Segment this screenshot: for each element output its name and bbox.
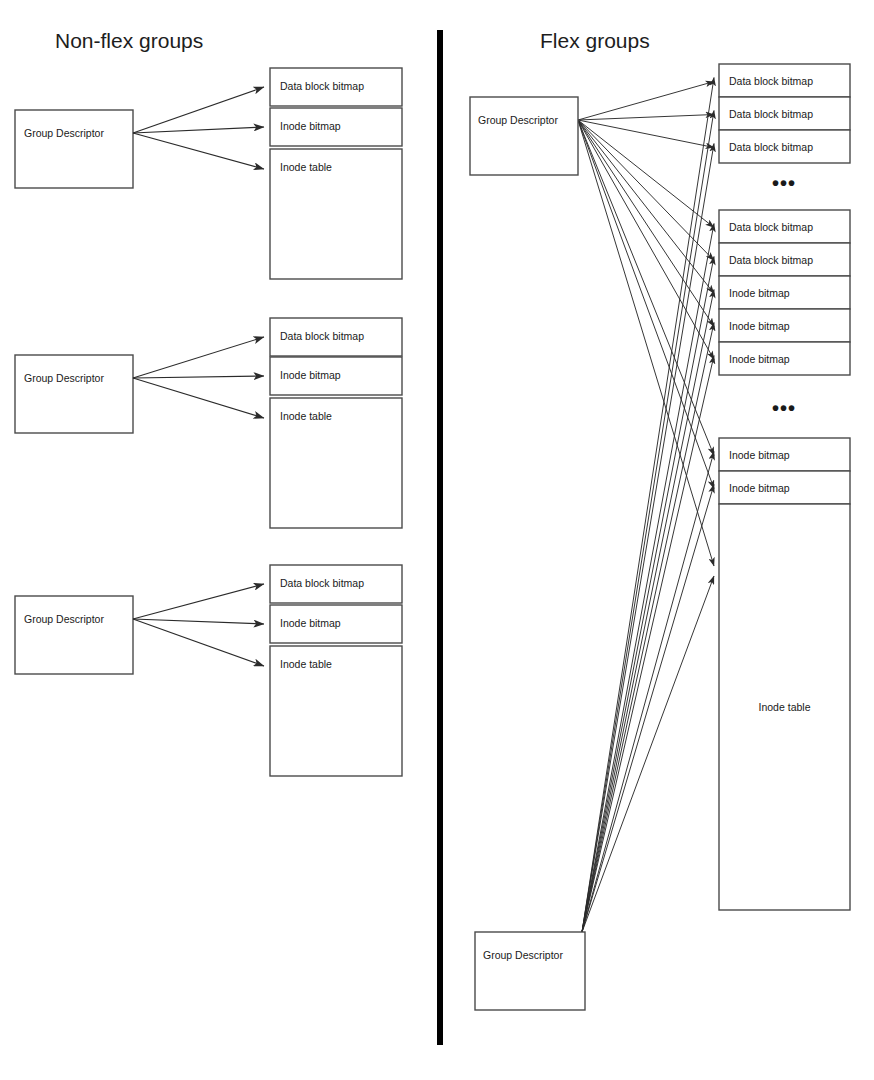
group-descriptor-box[interactable] [15, 596, 133, 674]
block-label: Inode bitmap [729, 449, 790, 461]
block-label: Data block bitmap [280, 80, 364, 92]
block-label: Inode bitmap [729, 353, 790, 365]
flex-descriptor-to-block-arrow [578, 82, 714, 121]
right-panel-title: Flex groups [540, 29, 650, 52]
descriptor-to-block-arrow [133, 378, 264, 418]
group-descriptor-box[interactable] [15, 110, 133, 188]
diagram-canvas: Non-flex groups Flex groups Group Descri… [0, 0, 874, 1080]
flex-block-cluster: Data block bitmapData block bitmapInode … [719, 210, 850, 375]
group-descriptor: Group Descriptor [470, 97, 578, 175]
flex-descriptor-to-block-arrow [578, 115, 714, 121]
group-descriptor-label: Group Descriptor [478, 114, 558, 126]
non-flex-groups-layer: Group DescriptorData block bitmapInode b… [15, 68, 402, 776]
descriptor-to-block-arrow [133, 127, 264, 133]
flex-descriptor-to-block-arrow [578, 120, 714, 566]
block-label: Inode bitmap [280, 120, 341, 132]
group-descriptor: Group Descriptor [475, 932, 585, 1010]
block-label: Data block bitmap [729, 75, 813, 87]
left-panel-title: Non-flex groups [55, 29, 203, 52]
flex-block-cluster: Data block bitmapData block bitmapData b… [719, 64, 850, 163]
block-label: Data block bitmap [729, 108, 813, 120]
descriptor-to-block-arrow [133, 87, 264, 133]
group-descriptor-label: Group Descriptor [24, 613, 104, 625]
descriptor-to-block-arrow [133, 337, 264, 378]
group-descriptor-box[interactable] [15, 355, 133, 433]
block-label: Inode bitmap [729, 287, 790, 299]
flex-groups-layer: Group DescriptorGroup DescriptorData blo… [470, 64, 850, 1010]
block-label: Inode bitmap [280, 617, 341, 629]
flex-descriptor-to-block-arrow [582, 78, 714, 933]
filesystem-group-layout-diagram: Non-flex groups Flex groups Group Descri… [0, 0, 874, 1080]
ellipsis-marker: ••• [772, 397, 796, 419]
flex-descriptor-to-block-arrow [582, 290, 714, 933]
flex-descriptor-to-block-arrow [578, 120, 714, 148]
block-label: Inode bitmap [729, 482, 790, 494]
block-label: Inode bitmap [729, 320, 790, 332]
flex-descriptor-to-block-arrow [582, 323, 714, 933]
flex-descriptor-to-block-arrow [582, 144, 714, 933]
group-descriptor-label: Group Descriptor [24, 127, 104, 139]
flex-descriptor-to-block-arrow [582, 257, 714, 933]
descriptor-to-block-arrow [133, 619, 264, 624]
block-label: Data block bitmap [729, 141, 813, 153]
block-label: Inode table [280, 161, 332, 173]
block-label: Inode table [280, 410, 332, 422]
flex-descriptor-to-block-arrow [578, 120, 714, 489]
block-label: Inode table [759, 701, 811, 713]
flex-groups-arrows-layer [578, 78, 714, 933]
block-label: Inode bitmap [280, 369, 341, 381]
descriptor-to-block-arrow [133, 584, 264, 619]
group-descriptor-label: Group Descriptor [483, 949, 563, 961]
group-descriptor-box[interactable] [475, 932, 585, 1010]
non-flex-group: Group DescriptorData block bitmapInode b… [15, 68, 402, 279]
non-flex-group: Group DescriptorData block bitmapInode b… [15, 565, 402, 776]
flex-descriptor-to-block-arrow [582, 224, 714, 933]
flex-descriptor-to-block-arrow [582, 485, 714, 933]
flex-descriptor-to-block-arrow [582, 356, 714, 933]
block-label: Data block bitmap [280, 330, 364, 342]
block-label: Data block bitmap [280, 577, 364, 589]
ellipsis-marker: ••• [772, 172, 796, 194]
flex-block-cluster: Inode bitmapInode bitmapInode table [719, 438, 850, 910]
flex-descriptor-to-block-arrow [578, 120, 714, 327]
descriptor-to-block-arrow [133, 619, 264, 666]
descriptor-to-block-arrow [133, 133, 264, 169]
block-label: Data block bitmap [729, 254, 813, 266]
flex-descriptor-to-block-arrow [578, 120, 714, 456]
block-label: Inode table [280, 658, 332, 670]
descriptor-to-block-arrow [133, 376, 264, 378]
non-flex-group: Group DescriptorData block bitmapInode b… [15, 318, 402, 528]
flex-descriptor-to-block-arrow [582, 111, 714, 933]
block-label: Data block bitmap [729, 221, 813, 233]
group-descriptor-label: Group Descriptor [24, 372, 104, 384]
group-descriptor-box[interactable] [470, 97, 578, 175]
